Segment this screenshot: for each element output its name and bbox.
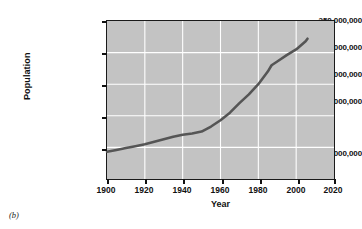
x-tick-label: 1980 bbox=[238, 185, 278, 195]
x-tick-mark bbox=[145, 179, 147, 184]
series-polyline bbox=[107, 39, 308, 152]
x-tick-label: 1940 bbox=[162, 185, 202, 195]
x-axis-title: Year bbox=[106, 199, 335, 209]
y-axis-title: Population bbox=[22, 53, 32, 101]
figure-container: Population 250,000,000 200,000,000 150,0… bbox=[0, 0, 362, 229]
x-tick-mark bbox=[298, 179, 300, 184]
x-tick-mark bbox=[334, 179, 336, 184]
x-tick-label: 1900 bbox=[86, 185, 126, 195]
x-tick-label: 1960 bbox=[200, 185, 240, 195]
x-tick-label: 2000 bbox=[276, 185, 316, 195]
x-tick-mark bbox=[222, 179, 224, 184]
x-tick-label: 1920 bbox=[124, 185, 164, 195]
figure-caption: (b) bbox=[9, 210, 19, 220]
y-tick-mark bbox=[102, 149, 107, 151]
x-tick-mark bbox=[107, 179, 109, 184]
x-tick-label: 2020 bbox=[313, 185, 353, 195]
x-tick-mark bbox=[183, 179, 185, 184]
population-line-series bbox=[107, 21, 334, 179]
y-tick-mark bbox=[102, 21, 107, 23]
y-tick-mark bbox=[102, 85, 107, 87]
x-tick-mark bbox=[260, 179, 262, 184]
plot-area bbox=[106, 20, 335, 180]
y-tick-mark bbox=[102, 53, 107, 55]
y-tick-mark bbox=[102, 117, 107, 119]
